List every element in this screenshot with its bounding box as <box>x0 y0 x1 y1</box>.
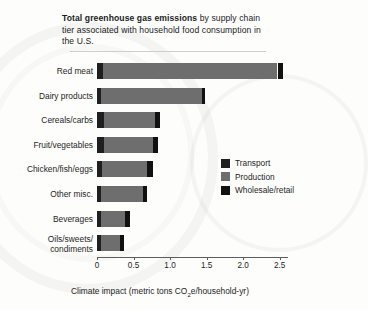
bar-segment-production <box>101 235 120 251</box>
x-axis-tick <box>170 257 171 260</box>
legend-label-production: Production <box>235 172 275 182</box>
legend-item-transport[interactable]: Transport <box>221 158 294 168</box>
chart-legend: TransportProductionWholesale/retail <box>221 158 294 199</box>
y-axis-label-line: Oils/sweets/ <box>1 234 93 244</box>
chart-title: Total greenhouse gas emissions by supply… <box>62 13 274 48</box>
legend-swatch-production <box>221 172 230 181</box>
bar-segment-production <box>101 186 143 202</box>
x-axis-tick-label: 2.5 <box>274 261 285 270</box>
x-axis-tick-label: 0 <box>95 261 100 270</box>
legend-label-retail: Wholesale/retail <box>235 185 294 195</box>
y-axis-label-line: Chicken/fish/eggs <box>1 164 93 174</box>
legend-swatch-transport <box>221 159 230 168</box>
y-axis-label-line: Red meat <box>1 66 93 76</box>
y-axis-label-0: Red meat <box>1 66 93 76</box>
bar-segment-production <box>103 63 278 79</box>
y-axis-category-labels: Red meatDairy productsCereals/carbsFruit… <box>0 62 93 262</box>
title-divider <box>70 51 266 52</box>
x-axis-tick <box>243 257 244 260</box>
x-axis-title-main: Climate impact (metric tons CO <box>71 286 187 296</box>
y-axis-label-3: Fruit/vegetables <box>1 140 93 150</box>
y-axis-label-line: condiments <box>1 244 93 254</box>
y-axis-label-line: Other misc. <box>1 189 93 199</box>
y-axis-label-2: Cereals/carbs <box>1 115 93 125</box>
bar-segment-wholesale-retail <box>278 63 284 79</box>
x-axis-tick-label: 2.0 <box>237 261 248 270</box>
y-axis-label-7: Oils/sweets/condiments <box>1 234 93 254</box>
x-axis-tick-label: 1.0 <box>164 261 175 270</box>
x-axis-line <box>97 257 288 258</box>
y-axis-label-line: Fruit/vegetables <box>1 140 93 150</box>
chart-subtitle-line: associated with household food consumpti… <box>62 25 261 47</box>
x-axis-tick <box>97 257 98 260</box>
bar-segment-transport <box>97 137 104 153</box>
bar-segment-wholesale-retail <box>125 211 130 227</box>
bar-segment-wholesale-retail <box>202 88 205 104</box>
x-axis-title: Climate impact (metric tons CO2e/househo… <box>0 286 320 298</box>
x-axis-tick <box>280 257 281 260</box>
x-axis-tick <box>134 257 135 260</box>
y-axis-label-line: Beverages <box>1 214 93 224</box>
legend-item-production[interactable]: Production <box>221 172 294 182</box>
x-axis-title-tail: e/household-yr) <box>191 286 249 296</box>
bar-segment-wholesale-retail <box>147 161 152 177</box>
bar-segment-production <box>104 112 155 128</box>
x-axis-tick <box>207 257 208 260</box>
y-axis-label-4: Chicken/fish/eggs <box>1 164 93 174</box>
y-axis-label-1: Dairy products <box>1 91 93 101</box>
bar-segment-wholesale-retail <box>120 235 124 251</box>
bar-segment-production <box>102 161 147 177</box>
legend-item-retail[interactable]: Wholesale/retail <box>221 185 294 195</box>
bar-segment-production <box>101 211 125 227</box>
bar-segment-production <box>104 137 152 153</box>
bar-segment-production <box>101 88 203 104</box>
x-axis-tick-label: 1.5 <box>201 261 212 270</box>
y-axis-label-5: Other misc. <box>1 189 93 199</box>
bar-segment-wholesale-retail <box>153 137 158 153</box>
chart-title-bold: Total greenhouse gas emissions <box>62 13 197 23</box>
legend-label-transport: Transport <box>235 158 270 168</box>
legend-swatch-retail <box>221 186 230 195</box>
bar-segment-wholesale-retail <box>143 186 147 202</box>
y-axis-label-line: Cereals/carbs <box>1 115 93 125</box>
bar-segment-wholesale-retail <box>155 112 160 128</box>
x-axis-tick-label: 0.5 <box>128 261 139 270</box>
y-axis-label-line: Dairy products <box>1 91 93 101</box>
y-axis-label-6: Beverages <box>1 214 93 224</box>
